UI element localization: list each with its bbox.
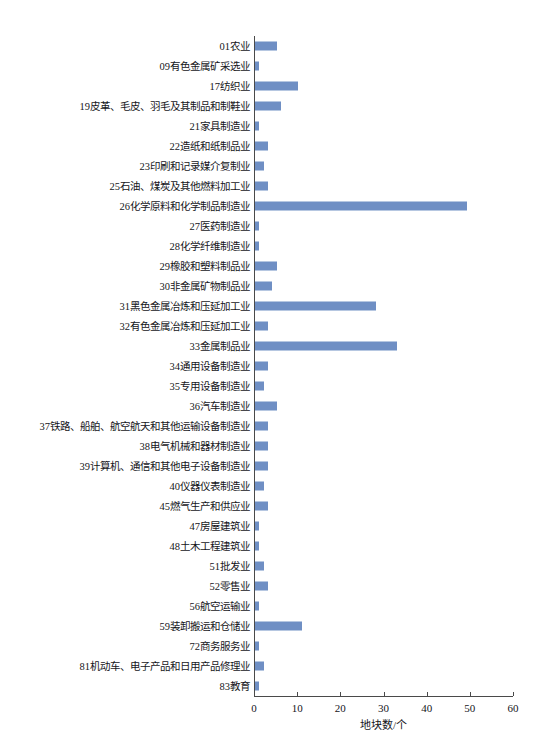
bar [255,562,264,571]
category-label: 48土木工程建筑业 [170,541,251,552]
bar [255,522,259,531]
x-axis-title: 地块数/个 [254,716,513,732]
bar [255,642,259,651]
x-axis-tick [254,692,255,696]
bar-row: 26化学原料和化学制品制造业 [255,196,513,216]
bar [255,542,259,551]
bar-row: 47房屋建筑业 [255,516,513,536]
bar-row: 32有色金属冶炼和压延加工业 [255,316,513,336]
bar [255,102,281,111]
bar-row: 30非金属矿物制品业 [255,276,513,296]
category-label: 45燃气生产和供应业 [160,501,251,512]
bar-row: 38电气机械和器材制造业 [255,436,513,456]
category-label: 59装卸搬运和仓储业 [160,621,251,632]
category-label: 83教育 [220,681,251,692]
bar [255,442,268,451]
x-axis-tick [470,692,471,696]
bar [255,142,268,151]
bar [255,222,259,231]
category-label: 27医药制造业 [190,221,251,232]
x-axis-tick-label: 30 [378,702,389,714]
bar-row: 34通用设备制造业 [255,356,513,376]
bar-row: 31黑色金属冶炼和压延加工业 [255,296,513,316]
bar [255,662,264,671]
category-label: 25石油、煤炭及其他燃料加工业 [110,181,251,192]
bar-row: 81机动车、电子产品和日用产品修理业 [255,656,513,676]
bar-row: 72商务服务业 [255,636,513,656]
bar [255,482,264,491]
bar [255,262,277,271]
bar-row: 27医药制造业 [255,216,513,236]
category-label: 47房屋建筑业 [190,521,251,532]
x-axis-line: 0102030405060 [254,696,513,697]
x-axis-tick-label: 40 [421,702,432,714]
bar-row: 21家具制造业 [255,116,513,136]
bar [255,302,376,311]
x-axis-tick-label: 10 [292,702,303,714]
bar-row: 33金属制品业 [255,336,513,356]
bar [255,682,259,691]
category-label: 52零售业 [210,581,251,592]
category-label: 17纺织业 [210,81,251,92]
bar-row: 45燃气生产和供应业 [255,496,513,516]
category-label: 26化学原料和化学制品制造业 [120,201,251,212]
category-label: 38电气机械和器材制造业 [140,441,251,452]
bar [255,282,272,291]
bar-row: 01农业 [255,36,513,56]
category-label: 39计算机、通信和其他电子设备制造业 [80,461,251,472]
bar [255,42,277,51]
bar [255,62,259,71]
plot-area: 01农业09有色金属矿采选业17纺织业19皮革、毛皮、羽毛及其制品和制鞋业21家… [254,36,513,696]
bar-row: 52零售业 [255,576,513,596]
bar-row: 09有色金属矿采选业 [255,56,513,76]
bar [255,342,397,351]
category-label: 01农业 [220,41,251,52]
bar-row: 36汽车制造业 [255,396,513,416]
bar-row: 29橡胶和塑料制品业 [255,256,513,276]
bar-row: 39计算机、通信和其他电子设备制造业 [255,456,513,476]
category-label: 36汽车制造业 [190,401,251,412]
x-axis-tick-label: 60 [508,702,519,714]
bar-row: 37铁路、船舶、航空航天和其他运输设备制造业 [255,416,513,436]
category-label: 21家具制造业 [190,121,251,132]
category-label: 81机动车、电子产品和日用产品修理业 [80,661,251,672]
category-label: 56航空运输业 [190,601,251,612]
x-axis-tick [384,692,385,696]
category-label: 29橡胶和塑料制品业 [160,261,251,272]
bar [255,602,259,611]
bar [255,122,259,131]
bar [255,622,302,631]
bar [255,422,268,431]
bar-row: 17纺织业 [255,76,513,96]
bar [255,322,268,331]
bar [255,402,277,411]
category-label: 32有色金属冶炼和压延加工业 [120,321,251,332]
bar-row: 48土木工程建筑业 [255,536,513,556]
x-axis-tick [513,692,514,696]
category-label: 31黑色金属冶炼和压延加工业 [120,301,251,312]
bar [255,362,268,371]
bar-row: 40仪器仪表制造业 [255,476,513,496]
bar-row: 19皮革、毛皮、羽毛及其制品和制鞋业 [255,96,513,116]
category-label: 51批发业 [210,561,251,572]
bar [255,162,264,171]
x-axis-tick-label: 20 [335,702,346,714]
bar [255,242,259,251]
category-label: 23印刷和记录媒介复制业 [140,161,251,172]
bar [255,582,268,591]
category-label: 09有色金属矿采选业 [160,61,251,72]
category-label: 19皮革、毛皮、羽毛及其制品和制鞋业 [80,101,251,112]
category-label: 22造纸和纸制品业 [170,141,251,152]
bar [255,462,268,471]
bar-row: 51批发业 [255,556,513,576]
bar-row: 56航空运输业 [255,596,513,616]
category-label: 72商务服务业 [190,641,251,652]
category-label: 30非金属矿物制品业 [160,281,251,292]
bar-row: 22造纸和纸制品业 [255,136,513,156]
category-label: 28化学纤维制造业 [170,241,251,252]
bar-row: 28化学纤维制造业 [255,236,513,256]
bar [255,202,467,211]
bar [255,182,268,191]
bar-chart-figure: 01农业09有色金属矿采选业17纺织业19皮革、毛皮、羽毛及其制品和制鞋业21家… [0,0,535,750]
x-axis-tick [297,692,298,696]
